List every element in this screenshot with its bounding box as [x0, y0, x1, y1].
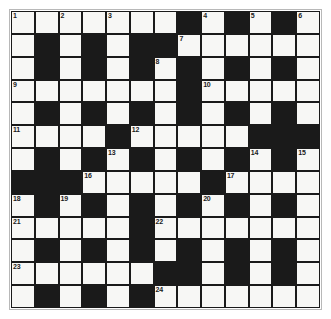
- grid-cell-open[interactable]: [154, 239, 178, 262]
- grid-cell-open[interactable]: [154, 11, 178, 34]
- grid-cell-open[interactable]: [225, 217, 249, 240]
- grid-cell-open[interactable]: [154, 125, 178, 148]
- grid-cell-open[interactable]: [11, 57, 35, 80]
- grid-cell-open[interactable]: [82, 125, 106, 148]
- grid-cell-open[interactable]: [35, 262, 59, 285]
- grid-cell-open[interactable]: [296, 80, 320, 103]
- grid-cell-open[interactable]: [249, 34, 273, 57]
- crossword-grid[interactable]: 123456789101112131415161718192021222324: [11, 11, 320, 308]
- grid-cell-open[interactable]: [35, 125, 59, 148]
- grid-cell-open[interactable]: [177, 217, 201, 240]
- grid-cell-open[interactable]: [106, 171, 130, 194]
- grid-cell-open[interactable]: [201, 262, 225, 285]
- grid-cell-open[interactable]: 23: [11, 262, 35, 285]
- grid-cell-open[interactable]: [59, 285, 83, 308]
- grid-cell-open[interactable]: 1: [11, 11, 35, 34]
- grid-cell-open[interactable]: [201, 102, 225, 125]
- grid-cell-open[interactable]: [154, 102, 178, 125]
- grid-cell-open[interactable]: [106, 194, 130, 217]
- grid-cell-open[interactable]: [11, 239, 35, 262]
- grid-cell-open[interactable]: [106, 239, 130, 262]
- grid-cell-open[interactable]: [249, 285, 273, 308]
- grid-cell-open[interactable]: [201, 239, 225, 262]
- grid-cell-open[interactable]: [106, 217, 130, 240]
- grid-cell-open[interactable]: [249, 239, 273, 262]
- grid-cell-open[interactable]: 20: [201, 194, 225, 217]
- grid-cell-open[interactable]: [296, 285, 320, 308]
- grid-cell-open[interactable]: 10: [201, 80, 225, 103]
- grid-cell-open[interactable]: [249, 171, 273, 194]
- grid-cell-open[interactable]: [296, 57, 320, 80]
- grid-cell-open[interactable]: [82, 262, 106, 285]
- grid-cell-open[interactable]: [82, 217, 106, 240]
- grid-cell-open[interactable]: [296, 262, 320, 285]
- grid-cell-open[interactable]: [59, 217, 83, 240]
- grid-cell-open[interactable]: [106, 80, 130, 103]
- grid-cell-open[interactable]: [35, 80, 59, 103]
- grid-cell-open[interactable]: 15: [296, 148, 320, 171]
- grid-cell-open[interactable]: 11: [11, 125, 35, 148]
- grid-cell-open[interactable]: [201, 125, 225, 148]
- grid-cell-open[interactable]: 6: [296, 11, 320, 34]
- grid-cell-open[interactable]: 2: [59, 11, 83, 34]
- grid-cell-open[interactable]: [106, 57, 130, 80]
- grid-cell-open[interactable]: [225, 80, 249, 103]
- grid-cell-open[interactable]: [177, 171, 201, 194]
- grid-cell-open[interactable]: [272, 34, 296, 57]
- grid-cell-open[interactable]: [225, 125, 249, 148]
- grid-cell-open[interactable]: [59, 34, 83, 57]
- grid-cell-open[interactable]: [201, 57, 225, 80]
- grid-cell-open[interactable]: [106, 102, 130, 125]
- grid-cell-open[interactable]: 19: [59, 194, 83, 217]
- grid-cell-open[interactable]: [59, 262, 83, 285]
- grid-cell-open[interactable]: [106, 262, 130, 285]
- grid-cell-open[interactable]: [249, 262, 273, 285]
- grid-cell-open[interactable]: 7: [177, 34, 201, 57]
- grid-cell-open[interactable]: 18: [11, 194, 35, 217]
- grid-cell-open[interactable]: [11, 34, 35, 57]
- grid-cell-open[interactable]: 3: [106, 11, 130, 34]
- grid-cell-open[interactable]: [35, 217, 59, 240]
- grid-cell-open[interactable]: [59, 125, 83, 148]
- grid-cell-open[interactable]: [177, 125, 201, 148]
- grid-cell-open[interactable]: [296, 239, 320, 262]
- grid-cell-open[interactable]: [177, 285, 201, 308]
- grid-cell-open[interactable]: [249, 80, 273, 103]
- grid-cell-open[interactable]: [106, 34, 130, 57]
- grid-cell-open[interactable]: 16: [82, 171, 106, 194]
- grid-cell-open[interactable]: [59, 239, 83, 262]
- grid-cell-open[interactable]: 14: [249, 148, 273, 171]
- grid-cell-open[interactable]: [249, 194, 273, 217]
- grid-cell-open[interactable]: [59, 80, 83, 103]
- grid-cell-open[interactable]: [201, 34, 225, 57]
- grid-cell-open[interactable]: [296, 34, 320, 57]
- grid-cell-open[interactable]: 13: [106, 148, 130, 171]
- grid-cell-open[interactable]: [82, 80, 106, 103]
- grid-cell-open[interactable]: [130, 80, 154, 103]
- grid-cell-open[interactable]: [272, 285, 296, 308]
- grid-cell-open[interactable]: 8: [154, 57, 178, 80]
- grid-cell-open[interactable]: [225, 285, 249, 308]
- grid-cell-open[interactable]: 17: [225, 171, 249, 194]
- grid-cell-open[interactable]: [296, 102, 320, 125]
- grid-cell-open[interactable]: [82, 11, 106, 34]
- grid-cell-open[interactable]: [249, 217, 273, 240]
- grid-cell-open[interactable]: [272, 80, 296, 103]
- grid-cell-open[interactable]: [296, 171, 320, 194]
- grid-cell-open[interactable]: [201, 217, 225, 240]
- grid-cell-open[interactable]: [11, 102, 35, 125]
- grid-cell-open[interactable]: [11, 285, 35, 308]
- grid-cell-open[interactable]: [201, 148, 225, 171]
- grid-cell-open[interactable]: [249, 57, 273, 80]
- grid-cell-open[interactable]: [130, 171, 154, 194]
- grid-cell-open[interactable]: [59, 102, 83, 125]
- grid-cell-open[interactable]: [225, 34, 249, 57]
- grid-cell-open[interactable]: [296, 217, 320, 240]
- grid-cell-open[interactable]: [154, 80, 178, 103]
- grid-cell-open[interactable]: 5: [249, 11, 273, 34]
- grid-cell-open[interactable]: [272, 171, 296, 194]
- grid-cell-open[interactable]: [11, 148, 35, 171]
- grid-cell-open[interactable]: [154, 171, 178, 194]
- grid-cell-open[interactable]: [296, 194, 320, 217]
- grid-cell-open[interactable]: [59, 148, 83, 171]
